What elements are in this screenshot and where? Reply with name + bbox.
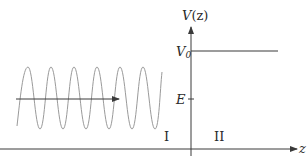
region-i-label: I [164, 129, 169, 144]
region-ii-label: II [214, 129, 224, 144]
potential-step-diagram: z V(z) V0 E I II [0, 0, 307, 164]
v-axis-label: V(z) [182, 8, 208, 23]
e-label: E [175, 92, 186, 107]
v0-label: V0 [176, 44, 191, 60]
z-axis-label: z [298, 141, 306, 156]
incident-wave [17, 67, 162, 129]
